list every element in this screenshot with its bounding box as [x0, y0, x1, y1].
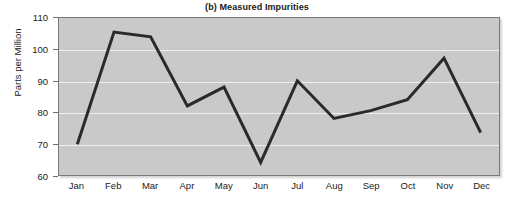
y-tick-label: 90: [37, 75, 48, 86]
y-tick-label: 80: [37, 107, 48, 118]
y-tick-label: 110: [33, 12, 48, 23]
plot-area: [58, 17, 500, 176]
y-tick-mark: [53, 176, 58, 177]
chart-title: (b) Measured Impurities: [0, 2, 514, 12]
x-tick-label: Feb: [105, 180, 121, 191]
x-tick-label: Jan: [69, 180, 84, 191]
impurities-line: [77, 32, 480, 162]
y-tick-label: 70: [37, 139, 48, 150]
x-tick-label: Jul: [291, 180, 303, 191]
x-tick-label: Apr: [180, 180, 195, 191]
x-axis-ticks: JanFebMarAprMayJunJulAugSepOctNovDec: [0, 180, 514, 200]
x-tick-label: May: [215, 180, 233, 191]
x-tick-label: Dec: [473, 180, 490, 191]
x-tick-label: Aug: [326, 180, 343, 191]
x-tick-label: Jun: [253, 180, 268, 191]
chart-figure: (b) Measured Impurities Parts per Millio…: [0, 0, 514, 209]
x-tick-label: Oct: [401, 180, 416, 191]
x-tick-label: Nov: [436, 180, 453, 191]
x-tick-label: Sep: [363, 180, 380, 191]
y-tick-label: 100: [32, 43, 48, 54]
y-axis-ticks: 60708090100110: [0, 0, 58, 209]
x-tick-label: Mar: [142, 180, 158, 191]
line-series: [59, 18, 499, 175]
